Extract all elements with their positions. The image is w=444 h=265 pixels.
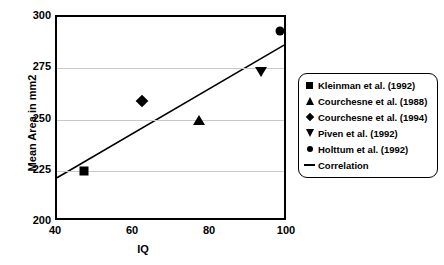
gridline xyxy=(57,120,284,121)
legend-item-label: Courchesne et al. (1988) xyxy=(316,96,427,107)
legend-item[interactable]: Courchesne et al. (1988) xyxy=(303,93,433,109)
legend-item[interactable]: Piven et al. (1992) xyxy=(303,125,433,141)
x-tick-label: 60 xyxy=(126,224,138,236)
legend-item[interactable]: Holttum et al. (1992) xyxy=(303,141,433,157)
y-tick-label: 300 xyxy=(33,9,51,21)
data-point-circle xyxy=(276,27,285,36)
y-axis-title: Mean Area in mm2 xyxy=(26,75,38,172)
triangle-down-marker-icon xyxy=(303,129,316,137)
x-tick-label: 40 xyxy=(49,224,61,236)
legend: Kleinman et al. (1992)Courchesne et al. … xyxy=(298,73,438,178)
legend-item-label: Holttum et al. (1992) xyxy=(316,144,408,155)
x-axis-tick-labels: 406080100 xyxy=(0,222,444,240)
chart-container: 200225250275300 Mean Area in mm2 4060801… xyxy=(0,0,444,265)
regression-line-layer xyxy=(57,17,284,218)
line-marker-icon xyxy=(303,164,316,166)
plot-area xyxy=(55,15,286,220)
square-marker-icon xyxy=(303,82,316,89)
legend-item-label: Courchesne et al. (1994) xyxy=(316,112,427,123)
gridline xyxy=(57,68,284,69)
correlation-trendline xyxy=(57,45,284,178)
legend-item[interactable]: Courchesne et al. (1994) xyxy=(303,109,433,125)
x-tick-label: 80 xyxy=(203,224,215,236)
circle-marker-icon xyxy=(303,146,316,152)
legend-item-label: Correlation xyxy=(316,160,369,171)
diamond-marker-icon xyxy=(303,114,316,120)
data-point-square xyxy=(79,166,88,175)
triangle-up-marker-icon xyxy=(303,97,316,105)
gridline xyxy=(57,171,284,172)
legend-item-label: Kleinman et al. (1992) xyxy=(316,80,415,91)
legend-item-label: Piven et al. (1992) xyxy=(316,128,398,139)
legend-item[interactable]: Kleinman et al. (1992) xyxy=(303,77,433,93)
x-axis-title: IQ xyxy=(0,243,286,255)
data-point-triangle-down xyxy=(255,67,267,77)
x-tick-label: 100 xyxy=(277,224,295,236)
data-point-triangle-up xyxy=(193,115,205,125)
legend-item[interactable]: Correlation xyxy=(303,157,433,173)
y-tick-label: 275 xyxy=(33,60,51,72)
